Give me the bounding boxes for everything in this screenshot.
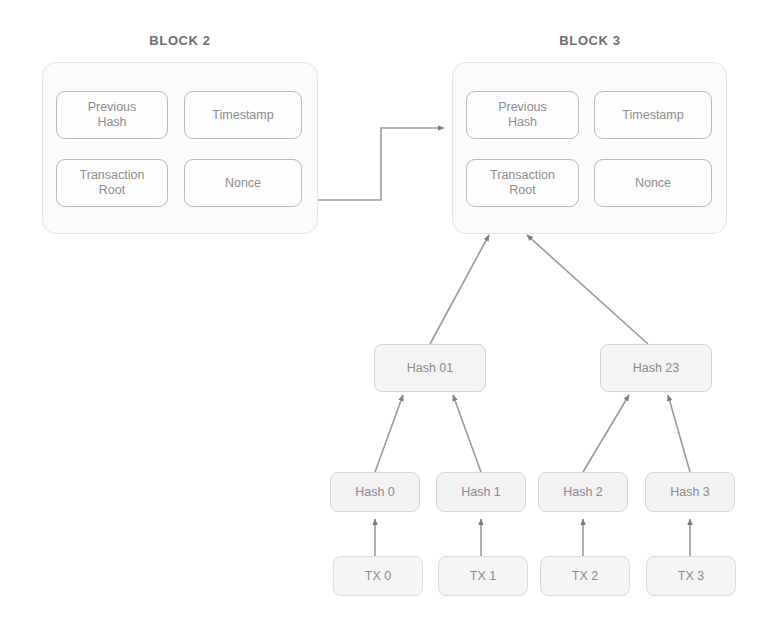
block2-title: BLOCK 2 [100, 33, 260, 48]
block3-panel: PreviousHash Timestamp TransactionRoot N… [452, 62, 727, 234]
connector-block2-to-block3 [318, 128, 444, 200]
merkle-node-hash-23[interactable]: Hash 23 [600, 344, 712, 392]
connector-hash23-to-transaction-root [527, 235, 648, 344]
block3-field-transaction-root[interactable]: TransactionRoot [466, 159, 579, 207]
merkle-leaf-hash-2[interactable]: Hash 2 [538, 472, 628, 512]
block3-field-timestamp[interactable]: Timestamp [594, 91, 712, 139]
block3-field-previous-hash[interactable]: PreviousHash [466, 91, 579, 139]
block2-field-transaction-root[interactable]: TransactionRoot [56, 159, 168, 207]
diagram-canvas: BLOCK 2 PreviousHash Timestamp Transacti… [0, 0, 770, 619]
connector-hash1-to-hash01 [453, 395, 481, 472]
merkle-leaf-hash-1[interactable]: Hash 1 [436, 472, 526, 512]
block2-field-previous-hash[interactable]: PreviousHash [56, 91, 168, 139]
transaction-tx-1[interactable]: TX 1 [438, 556, 528, 596]
block2-field-nonce[interactable]: Nonce [184, 159, 302, 207]
connector-hash01-to-transaction-root [430, 235, 489, 344]
transaction-tx-2[interactable]: TX 2 [540, 556, 630, 596]
connector-hash2-to-hash23 [583, 395, 629, 472]
block3-field-nonce[interactable]: Nonce [594, 159, 712, 207]
connector-hash0-to-hash01 [375, 395, 403, 472]
block3-title: BLOCK 3 [510, 33, 670, 48]
block2-field-timestamp[interactable]: Timestamp [184, 91, 302, 139]
transaction-tx-3[interactable]: TX 3 [646, 556, 736, 596]
merkle-node-hash-01[interactable]: Hash 01 [374, 344, 486, 392]
merkle-leaf-hash-3[interactable]: Hash 3 [645, 472, 735, 512]
block2-panel: PreviousHash Timestamp TransactionRoot N… [42, 62, 318, 234]
transaction-tx-0[interactable]: TX 0 [333, 556, 423, 596]
connector-hash3-to-hash23 [668, 395, 690, 472]
merkle-leaf-hash-0[interactable]: Hash 0 [330, 472, 420, 512]
